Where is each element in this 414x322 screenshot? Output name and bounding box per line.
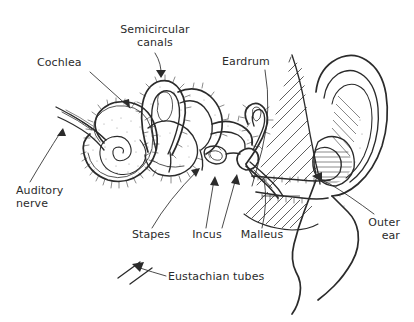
label-auditory-nerve-line1: Auditory xyxy=(16,185,86,198)
label-semicircular-canals-line2: canals xyxy=(105,37,205,50)
pinna-outer-ear-structure xyxy=(292,55,387,314)
label-outer-ear-line2: ear xyxy=(340,230,400,243)
label-malleus: Malleus xyxy=(236,229,288,242)
ear-anatomy-diagram: .st { fill:none; stroke:#2b2b2b; stroke-… xyxy=(0,0,414,322)
ossicles-structure xyxy=(204,103,273,178)
label-cochlea: Cochlea xyxy=(37,57,97,70)
label-stapes: Stapes xyxy=(126,229,176,242)
label-incus: Incus xyxy=(184,229,230,242)
label-auditory-nerve-line2: nerve xyxy=(16,198,86,211)
label-semicircular-canals-line1: Semicircular xyxy=(105,24,205,37)
label-outer-ear-line1: Outer xyxy=(340,217,400,230)
label-eustachian-tubes: Eustachian tubes xyxy=(168,271,278,284)
label-eardrum: Eardrum xyxy=(222,56,292,69)
skull-bone-hatching xyxy=(238,0,350,220)
